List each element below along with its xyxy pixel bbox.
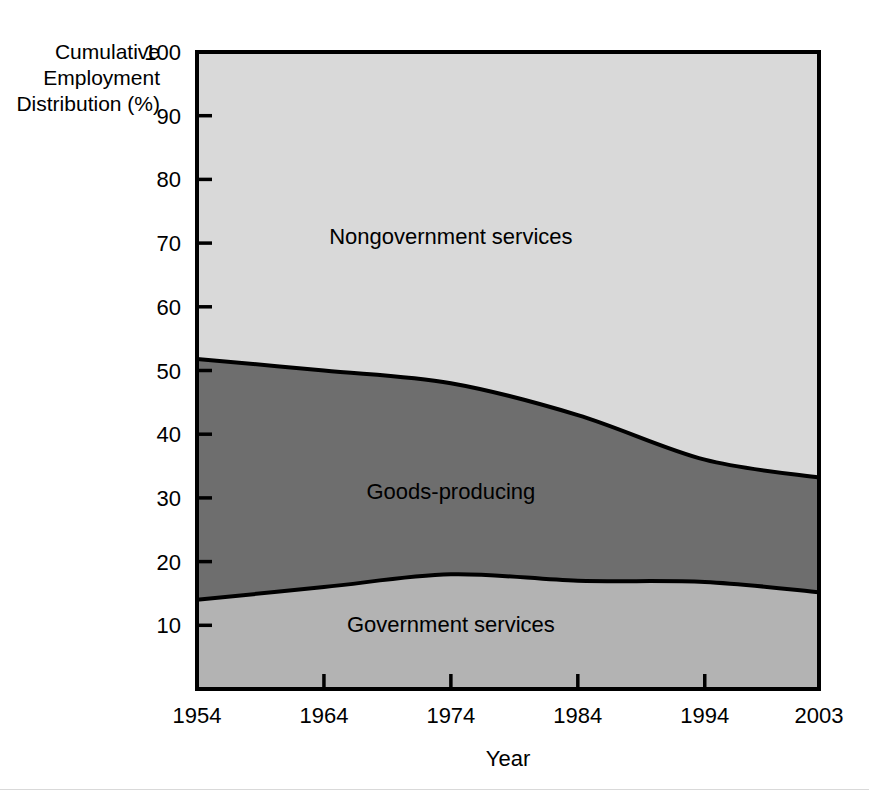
y-tick-label: 70 [157, 231, 181, 256]
x-tick-label: 1984 [553, 703, 602, 728]
x-tick-label: 1954 [173, 703, 222, 728]
chart-figure: 102030405060708090100 195419641974198419… [0, 0, 869, 802]
series-label-goods-producing: Goods-producing [366, 479, 535, 504]
y-tick-label: 30 [157, 486, 181, 511]
y-axis-label-line-1: Cumulative [55, 40, 160, 63]
y-tick-label: 40 [157, 422, 181, 447]
y-tick-label: 90 [157, 104, 181, 129]
y-axis-label-line-3: Distribution (%) [16, 92, 160, 115]
y-tick-label: 20 [157, 550, 181, 575]
y-axis-label-line-2: Employment [43, 66, 160, 89]
x-axis-label: Year [486, 746, 530, 771]
area-bands-group [197, 52, 819, 689]
stacked-area-chart: 102030405060708090100 195419641974198419… [0, 0, 869, 802]
y-tick-label: 80 [157, 167, 181, 192]
x-tick-label: 1994 [680, 703, 729, 728]
page-footer-rule [0, 789, 869, 790]
x-tick-label: 2003 [795, 703, 844, 728]
series-label-nongovernment-services: Nongovernment services [329, 224, 572, 249]
x-tick-label: 1964 [299, 703, 348, 728]
y-tick-label: 60 [157, 295, 181, 320]
series-label-government-services: Government services [347, 612, 555, 637]
y-tick-label: 10 [157, 613, 181, 638]
y-tick-label: 50 [157, 359, 181, 384]
x-tick-label: 1974 [426, 703, 475, 728]
